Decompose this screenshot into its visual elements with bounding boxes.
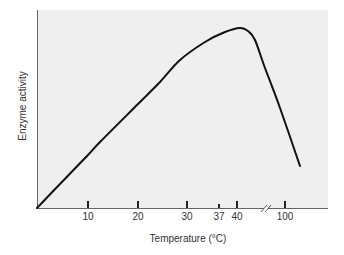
x-tick-label: 37 <box>213 211 224 222</box>
plot-background <box>37 10 328 208</box>
y-axis-label: Enzyme activity <box>17 71 28 140</box>
x-tick-label: 100 <box>277 211 294 222</box>
x-tick-label: 20 <box>132 211 143 222</box>
x-tick-label: 40 <box>231 211 242 222</box>
x-axis-label: Temperature (°C) <box>150 233 227 244</box>
x-tick-label: 10 <box>82 211 93 222</box>
x-tick-label: 30 <box>181 211 192 222</box>
